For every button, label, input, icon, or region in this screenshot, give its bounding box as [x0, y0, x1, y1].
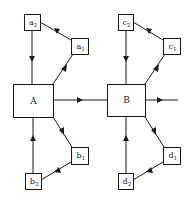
- node-c1: c1: [164, 39, 181, 55]
- edge-b2-to-A: [30, 117, 36, 173]
- node-d1: d1: [164, 148, 181, 165]
- edge-A-to-b1: [53, 117, 72, 147]
- edge-B-to-d1: [145, 117, 164, 147]
- node-c2-sub: 2: [127, 22, 131, 28]
- edge-d1-to-d2: [133, 162, 163, 180]
- node-a1-sub: 1: [81, 46, 85, 52]
- edge-b1-to-b2: [41, 162, 71, 180]
- node-A-label: A: [29, 96, 37, 106]
- edge-B-to-output: [145, 97, 178, 103]
- feedback-loop-diagram: A B a2 a1 b1 b2 c2 c1 d1 d2: [0, 0, 190, 197]
- node-B-label: B: [123, 95, 130, 105]
- node-d2: d2: [119, 174, 134, 190]
- edge-a1-to-a2: [40, 22, 71, 40]
- node-a2-sub: 2: [34, 22, 38, 28]
- edge-d2-to-B: [123, 117, 129, 173]
- node-A: A: [14, 85, 54, 118]
- node-c2: c2: [119, 15, 134, 31]
- node-b1-sub: 1: [82, 155, 86, 161]
- edge-c1-to-c2: [133, 22, 163, 40]
- node-c1-sub: 1: [173, 46, 177, 52]
- edge-A-to-B: [53, 97, 107, 103]
- edge-B-to-c1: [145, 54, 165, 84]
- node-d1-sub: 1: [174, 155, 178, 161]
- node-b1: b1: [72, 148, 89, 165]
- node-a2: a2: [25, 15, 41, 31]
- edge-a2-to-A: [29, 30, 35, 84]
- edge-A-to-a1: [53, 54, 73, 84]
- node-b2-sub: 2: [35, 181, 39, 187]
- node-b2: b2: [26, 174, 42, 190]
- node-d2-sub: 2: [128, 181, 132, 187]
- node-a1: a1: [72, 39, 89, 55]
- node-B: B: [108, 85, 146, 117]
- edge-c2-to-B: [123, 30, 129, 84]
